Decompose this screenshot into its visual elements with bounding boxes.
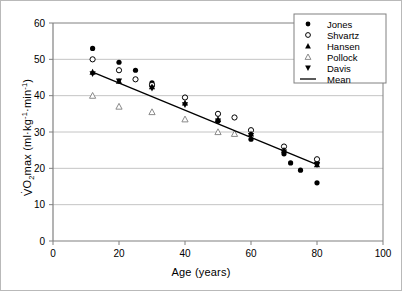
data-point-jones (288, 160, 293, 165)
mean-regression-line (93, 72, 317, 165)
data-point-jones (298, 168, 303, 173)
data-point-pollock (116, 103, 122, 109)
data-point-pollock (149, 109, 155, 115)
legend-label-mean: Mean (327, 74, 351, 85)
legend-marker-jones (306, 22, 311, 27)
x-axis-title: Age (years) (1, 266, 401, 278)
legend-label-shvartz: Shvartz (327, 30, 359, 41)
data-point-shvartz (90, 57, 95, 62)
data-point-jones (116, 60, 121, 65)
legend-label-hansen: Hansen (327, 41, 360, 52)
data-point-shvartz (215, 111, 220, 116)
legend-marker-shvartz (306, 33, 311, 38)
data-point-jones (133, 68, 138, 73)
x-tick-label-20: 20 (113, 248, 125, 259)
v-dot-symbol: V· (21, 189, 33, 197)
x-tick-label-40: 40 (179, 248, 191, 259)
legend-label-davis: Davis (327, 63, 351, 74)
chart-figure: 0102030405060020406080100JonesShvartzHan… (0, 0, 402, 291)
x-tick-label-0: 0 (50, 248, 56, 259)
data-point-pollock (182, 116, 188, 122)
x-tick-label-100: 100 (375, 248, 392, 259)
y-axis-title: V·O2max (ml·kg-1·min-1) (20, 52, 37, 222)
legend-label-pollock: Pollock (327, 52, 358, 63)
x-tick-label-60: 60 (245, 248, 257, 259)
data-point-shvartz (182, 95, 187, 100)
data-point-jones (314, 180, 319, 185)
data-point-shvartz (116, 68, 121, 73)
data-point-jones (90, 46, 95, 51)
data-point-shvartz (133, 77, 138, 82)
x-tick-label-80: 80 (311, 248, 323, 259)
y-tick-label-0: 0 (39, 236, 45, 247)
y-tick-label-60: 60 (34, 18, 46, 29)
scatter-plot: 0102030405060020406080100JonesShvartzHan… (1, 1, 402, 291)
data-point-shvartz (314, 157, 319, 162)
data-point-shvartz (232, 115, 237, 120)
legend-label-jones: Jones (327, 19, 353, 30)
